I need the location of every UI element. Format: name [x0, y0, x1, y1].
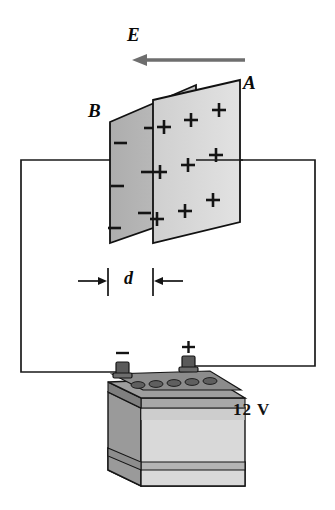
battery-voltage-label: 12 V [233, 400, 270, 420]
capacitor-circuit-diagram [0, 0, 335, 510]
battery-12v [108, 341, 245, 486]
wire-left-branch [21, 160, 124, 372]
plate-a-positive [150, 80, 243, 243]
field-label: E [127, 24, 140, 46]
battery-positive-terminal [179, 341, 198, 372]
figure-canvas: E A B d 12 V [0, 0, 335, 510]
plate-a-label: A [243, 72, 256, 94]
battery-negative-terminal [113, 353, 132, 378]
separation-label: d [124, 268, 133, 289]
electric-field-arrow [132, 54, 245, 66]
plate-b-label: B [88, 100, 101, 122]
